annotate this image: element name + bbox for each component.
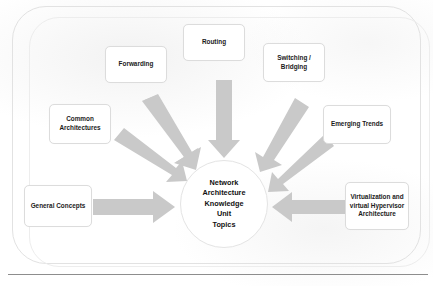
topic-label-routing: Routing bbox=[202, 38, 226, 47]
caption-divider bbox=[8, 274, 428, 275]
topic-label-virtualization: Virtualization and virtual Hypervisor Ar… bbox=[350, 193, 404, 219]
topic-box-routing[interactable]: Routing bbox=[183, 24, 245, 61]
figure-page: Forwarding Routing Switching / Bridging … bbox=[0, 0, 433, 286]
topic-box-virtualization[interactable]: Virtualization and virtual Hypervisor Ar… bbox=[345, 182, 409, 230]
topic-label-switching-bridging: Switching / Bridging bbox=[277, 54, 311, 71]
center-hub-circle[interactable]: Network Architecture Knowledge Unit Topi… bbox=[180, 160, 268, 248]
topic-box-switching-bridging[interactable]: Switching / Bridging bbox=[263, 43, 325, 82]
arrow-virtualization bbox=[272, 192, 346, 222]
topic-box-common-architectures[interactable]: Common Architectures bbox=[49, 104, 111, 144]
topic-label-emerging-trends: Emerging Trends bbox=[331, 120, 383, 129]
topic-label-common-architectures: Common Architectures bbox=[59, 115, 100, 132]
topic-label-general-concepts: General Concepts bbox=[31, 202, 86, 211]
topic-box-general-concepts[interactable]: General Concepts bbox=[24, 185, 92, 227]
arrow-routing bbox=[208, 80, 240, 158]
topic-box-forwarding[interactable]: Forwarding bbox=[105, 46, 167, 83]
figure-caption bbox=[8, 277, 428, 286]
topic-box-emerging-trends[interactable]: Emerging Trends bbox=[323, 105, 391, 144]
topic-label-forwarding: Forwarding bbox=[119, 60, 154, 69]
center-hub-label: Network Architecture Knowledge Unit Topi… bbox=[203, 178, 246, 230]
arrow-general-concepts bbox=[93, 191, 175, 223]
